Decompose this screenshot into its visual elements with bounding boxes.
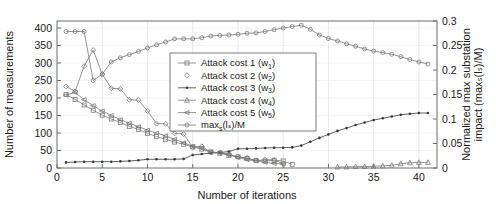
series-marker	[146, 158, 149, 161]
y-axis-tick-label-right: 0.1	[442, 113, 457, 125]
y-axis-title-right-line1: Normalized max substation	[460, 28, 472, 161]
series-marker	[291, 146, 294, 149]
y-axis-tick-label-right: 0.3	[442, 15, 457, 27]
series-marker	[237, 147, 240, 150]
y-axis-tick-label-left: 250	[34, 74, 52, 86]
y-axis-tick-label-left: 100	[34, 127, 52, 139]
x-axis-tick-label: 25	[277, 171, 289, 183]
series-marker	[282, 146, 285, 149]
series-marker	[264, 147, 267, 150]
legend-label: Attack cost 3 (w3)	[201, 82, 275, 94]
series-marker	[191, 154, 194, 157]
series-marker	[390, 115, 393, 118]
y-axis-tick-label-left: 50	[40, 144, 52, 156]
series-marker	[182, 158, 185, 161]
series-marker	[164, 158, 167, 161]
series-marker	[101, 160, 104, 163]
series-marker	[83, 160, 86, 163]
series-marker	[119, 160, 122, 163]
legend-sample-marker	[186, 87, 189, 90]
figure-container: 0510152025303540050100150200250300350400…	[0, 0, 496, 204]
series-marker	[228, 150, 231, 153]
series-marker	[92, 160, 95, 163]
y-axis-title-right-line2: impact (maxₛ(lₛ)/M)	[472, 48, 484, 142]
chart-legend: Attack cost 1 (w1)Attack cost 2 (w2)Atta…	[170, 53, 316, 132]
y-axis-tick-label-left: 0	[46, 162, 52, 174]
series-marker	[64, 84, 69, 89]
legend-label: maxs(lₛ)/M	[201, 119, 245, 131]
series-marker	[345, 127, 348, 130]
x-axis-tick-label: 15	[187, 171, 199, 183]
x-axis-tick-label: 0	[54, 171, 60, 183]
y-axis-tick-label-left: 200	[34, 92, 52, 104]
y-axis-title-left: Number of measurements	[3, 30, 15, 158]
series-marker	[137, 159, 140, 162]
chart-plot-area: 0510152025303540050100150200250300350400…	[0, 0, 496, 204]
x-axis-tick-label: 30	[323, 171, 335, 183]
series-marker	[65, 161, 68, 164]
y-axis-tick-label-right: 0.2	[442, 64, 457, 76]
series-marker	[110, 160, 113, 163]
series-marker	[409, 112, 412, 115]
series-marker	[336, 130, 339, 133]
x-axis-tick-label: 10	[142, 171, 154, 183]
series-marker	[74, 161, 77, 164]
series-marker	[400, 114, 403, 117]
legend-label: Attack cost 1 (w1)	[201, 57, 275, 69]
series-marker	[381, 117, 384, 120]
y-axis-tick-label-left: 150	[34, 109, 52, 121]
y-axis-tick-label-right: 0	[442, 162, 448, 174]
series-marker	[300, 144, 303, 147]
x-axis-title: Number of iterations	[197, 189, 297, 201]
x-axis-tick-label: 40	[413, 171, 425, 183]
series-marker	[273, 146, 276, 149]
x-axis-tick-label: 20	[232, 171, 244, 183]
y-axis-tick-label-left: 350	[34, 39, 52, 51]
y-axis-tick-label-left: 400	[34, 22, 52, 34]
x-axis-tick-label: 35	[368, 171, 380, 183]
series-marker	[372, 119, 375, 122]
series-marker	[327, 133, 330, 136]
line-chart-svg: 0510152025303540050100150200250300350400…	[0, 0, 496, 204]
series-marker	[128, 160, 131, 163]
series-marker	[318, 137, 321, 140]
series-marker	[173, 158, 176, 161]
x-axis-tick-label: 5	[99, 171, 105, 183]
series-marker	[363, 121, 366, 124]
legend-label: Attack cost 4 (w4)	[201, 95, 275, 107]
series-marker	[418, 112, 421, 115]
y-axis-tick-label-left: 300	[34, 57, 52, 69]
series-marker	[155, 158, 158, 161]
series-marker	[427, 112, 430, 115]
series-marker	[309, 140, 312, 143]
series-marker	[354, 124, 357, 127]
legend-label: Attack cost 5 (w5)	[201, 107, 275, 119]
series-marker	[255, 147, 258, 150]
series-marker	[246, 147, 249, 150]
series-marker	[200, 153, 203, 156]
legend-label: Attack cost 2 (w2)	[201, 70, 275, 82]
